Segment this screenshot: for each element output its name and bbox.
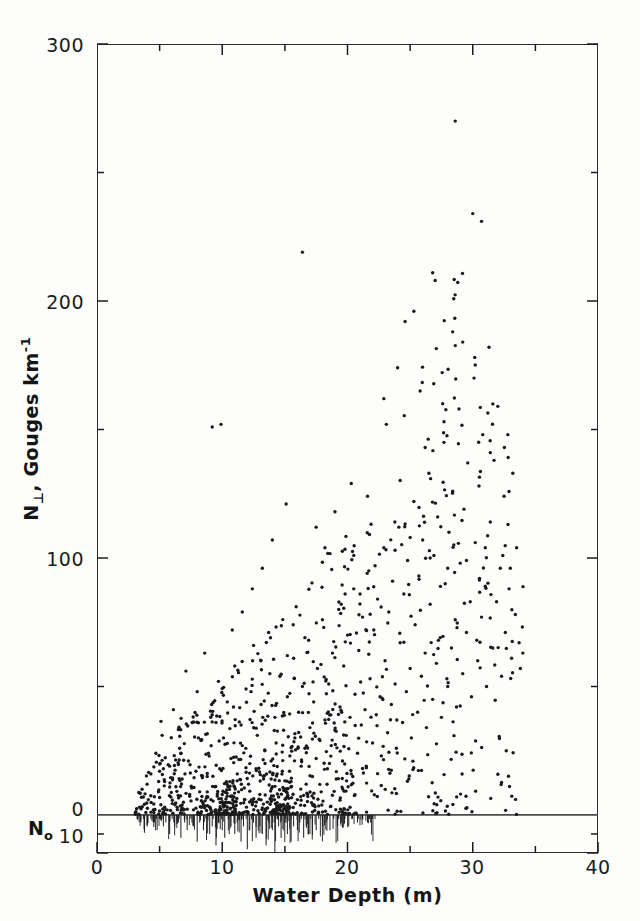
y-tick-label-200: 200	[20, 291, 84, 313]
y-axis-title: N⊥, Gouges km-1	[18, 319, 45, 539]
figure-scatter-gouges-vs-depth: 300 200 100 0 10 No 0 10 20 30 40 N⊥, Go…	[0, 0, 640, 921]
n0-subpanel-frame	[97, 815, 598, 853]
n0-axis-label-subscript: o	[44, 828, 53, 843]
y-axis-title-rest: , Gouges km	[20, 352, 42, 491]
n0-axis-label-symbol: N	[28, 817, 44, 839]
y-axis-title-subscript: ⊥	[31, 492, 46, 504]
y-tick-label-300: 300	[20, 34, 84, 56]
plot-frame	[97, 44, 598, 815]
x-axis-title: Water Depth (m)	[97, 884, 598, 906]
x-tick-label-30: 30	[452, 856, 492, 878]
y-axis-title-superscript: -1	[18, 337, 33, 353]
x-tick-label-40: 40	[578, 856, 618, 878]
x-tick-label-10: 10	[202, 856, 242, 878]
x-tick-label-20: 20	[327, 856, 367, 878]
x-tick-label-0: 0	[77, 856, 117, 878]
y-axis-title-symbol: N	[20, 504, 42, 521]
n0-axis-label: No	[28, 817, 53, 843]
y-tick-label-100: 100	[20, 548, 84, 570]
